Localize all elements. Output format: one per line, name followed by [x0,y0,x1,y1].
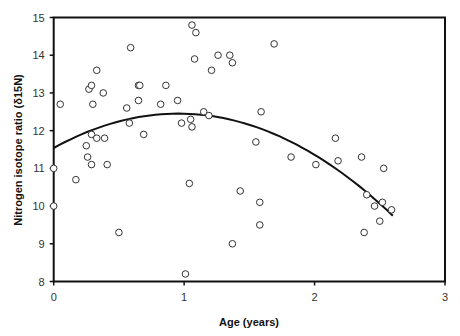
data-point [84,154,91,161]
data-point [50,165,57,172]
data-point [127,44,134,51]
y-tick-label: 13 [32,87,44,99]
data-point [140,131,147,138]
data-point [157,101,164,108]
x-axis-title: Age (years) [219,316,279,328]
data-point [101,135,108,142]
data-point [73,176,80,183]
y-axis-ticks: 89101112131415 [32,12,53,288]
plot-border [54,18,445,282]
data-point [191,56,198,63]
data-point [271,41,278,48]
data-point [229,59,236,66]
data-point [208,67,215,74]
y-axis-title: Nitrogen isotope ratio (δ15N) [12,74,24,226]
x-tick-label: 0 [51,291,57,303]
data-point [187,116,194,123]
data-point [363,191,370,198]
x-tick-label: 2 [312,291,318,303]
data-point [335,158,342,165]
data-point [229,240,236,247]
data-points [50,22,394,278]
data-point [193,29,200,36]
data-point [288,154,295,161]
data-point [123,105,130,112]
y-tick-label: 9 [39,238,45,250]
data-point [358,154,365,161]
x-tick-label: 1 [181,291,187,303]
data-point [388,207,395,214]
data-point [90,101,97,108]
y-tick-label: 14 [32,49,44,61]
data-point [182,271,189,278]
data-point [258,108,265,115]
y-tick-label: 15 [32,12,44,24]
data-point [93,67,100,74]
data-point [104,161,111,168]
data-point [256,222,263,229]
data-point [135,97,142,104]
data-point [376,218,383,225]
data-point [88,82,95,89]
data-point [174,97,181,104]
y-tick-label: 11 [33,162,44,174]
data-point [226,52,233,59]
data-point [189,124,196,131]
data-point [83,142,90,149]
data-point [332,135,339,142]
data-point [313,161,320,168]
data-point [215,52,222,59]
data-point [237,188,244,195]
data-point [163,82,170,89]
data-point [361,229,368,236]
data-point [379,199,386,206]
data-point [186,180,193,187]
x-tick-label: 3 [442,291,448,303]
data-point [50,203,57,210]
data-point [88,161,95,168]
data-point [380,165,387,172]
data-point [57,101,64,108]
data-point [371,203,378,210]
data-point [256,199,263,206]
y-tick-label: 8 [39,276,45,288]
x-axis-ticks: 0123 [51,282,448,303]
data-point [116,229,123,236]
y-tick-label: 12 [32,125,44,137]
data-point [178,120,185,127]
data-point [93,135,100,142]
data-point [136,82,143,89]
data-point [126,120,133,127]
data-point [253,139,260,146]
y-tick-label: 10 [32,200,44,212]
data-point [206,112,213,119]
data-point [100,90,107,97]
data-point [189,22,196,29]
plot-frame [54,18,445,282]
scatter-chart: 89101112131415 0123 Age (years) Nitrogen… [0,0,460,336]
